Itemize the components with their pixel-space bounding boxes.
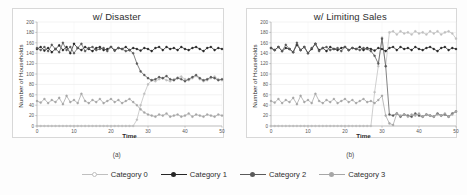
legend-entry-category-3[interactable]: Category 3 (319, 170, 385, 179)
svg-text:200: 200 (26, 20, 34, 25)
legend-entry-category-0[interactable]: Category 0 (82, 170, 148, 179)
svg-text:120: 120 (26, 61, 34, 66)
svg-text:10: 10 (71, 129, 77, 134)
legend-label-category-2: Category 2 (269, 170, 306, 179)
legend-label-category-0: Category 0 (111, 170, 148, 179)
svg-text:80: 80 (262, 82, 268, 87)
svg-text:20: 20 (29, 113, 35, 118)
svg-text:180: 180 (260, 30, 268, 35)
svg-text:50: 50 (219, 129, 225, 134)
svg-text:30: 30 (145, 129, 151, 134)
svg-text:100: 100 (260, 72, 268, 77)
svg-text:20: 20 (342, 129, 348, 134)
svg-text:100: 100 (26, 72, 34, 77)
svg-text:40: 40 (262, 103, 268, 108)
svg-text:140: 140 (260, 51, 268, 56)
svg-text:30: 30 (379, 129, 385, 134)
legend: Category 0 Category 1 Category 2 Categor… (0, 162, 467, 186)
panels-row: w/ Disaster Number of Households 0204060… (0, 0, 467, 160)
panel-b: w/ Limiting Sales Number of Households 0… (234, 0, 467, 160)
panel-a-caption: (a) (0, 151, 234, 158)
legend-label-category-1: Category 1 (190, 170, 227, 179)
svg-text:200: 200 (260, 20, 268, 25)
svg-text:160: 160 (26, 41, 34, 46)
legend-label-category-3: Category 3 (348, 170, 385, 179)
svg-text:50: 50 (453, 129, 459, 134)
svg-text:Time: Time (122, 132, 137, 139)
panel-b-plot: 02040608010012014016018020001020304050Ti… (234, 0, 467, 160)
legend-marker-icon-category-2 (240, 170, 266, 179)
panel-b-caption: (b) (234, 151, 467, 158)
svg-text:40: 40 (416, 129, 422, 134)
svg-text:0: 0 (31, 124, 34, 129)
svg-text:140: 140 (26, 51, 34, 56)
svg-text:40: 40 (29, 103, 35, 108)
legend-entry-category-1[interactable]: Category 1 (161, 170, 227, 179)
legend-marker-icon-category-3 (319, 170, 345, 179)
figure-container: w/ Disaster Number of Households 0204060… (0, 0, 467, 195)
legend-entry-category-2[interactable]: Category 2 (240, 170, 306, 179)
svg-text:40: 40 (182, 129, 188, 134)
svg-text:10: 10 (305, 129, 311, 134)
svg-text:60: 60 (262, 93, 268, 98)
svg-text:160: 160 (260, 41, 268, 46)
panel-a: w/ Disaster Number of Households 0204060… (0, 0, 234, 160)
svg-text:20: 20 (108, 129, 114, 134)
svg-text:60: 60 (29, 93, 35, 98)
svg-text:0: 0 (269, 129, 272, 134)
panel-a-plot: 02040608010012014016018020001020304050Ti… (0, 0, 233, 160)
legend-marker-icon-category-1 (161, 170, 187, 179)
legend-marker-icon-category-0 (82, 170, 108, 179)
svg-text:80: 80 (29, 82, 35, 87)
svg-text:0: 0 (36, 129, 39, 134)
svg-text:180: 180 (26, 30, 34, 35)
svg-text:120: 120 (260, 61, 268, 66)
svg-text:0: 0 (265, 124, 268, 129)
svg-text:20: 20 (262, 113, 268, 118)
svg-text:Time: Time (356, 132, 371, 139)
